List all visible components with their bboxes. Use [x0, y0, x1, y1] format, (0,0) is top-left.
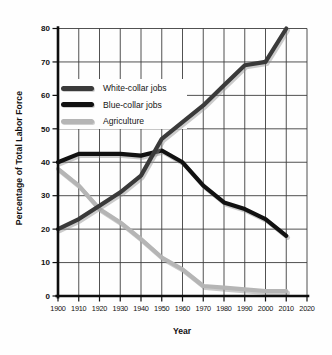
y-tick-label: 0: [46, 292, 51, 301]
agriculture-line: [58, 169, 286, 291]
x-tick-label: 1970: [196, 304, 212, 313]
labor-force-chart-figure: 0102030405060708019001910192019301940195…: [0, 0, 332, 355]
agriculture-line-shadow: [60, 171, 288, 293]
x-tick-label: 1990: [237, 304, 253, 313]
x-tick-label: 2000: [258, 304, 274, 313]
y-tick-label: 30: [41, 191, 50, 200]
x-tick-label: 2010: [279, 304, 295, 313]
y-tick-label: 60: [41, 91, 50, 100]
x-tick-label: 1900: [50, 304, 66, 313]
legend-label: White-collar jobs: [103, 83, 167, 93]
blue-collar-line-swatch: [61, 102, 94, 107]
x-tick-label: 1980: [216, 304, 232, 313]
y-tick-label: 20: [41, 225, 50, 234]
legend-item-agriculture: Agriculture: [61, 113, 167, 130]
x-tick-label: 1910: [71, 304, 87, 313]
x-tick-label: 1930: [113, 304, 129, 313]
legend-label: Blue-collar jobs: [103, 100, 162, 110]
y-tick-label: 10: [41, 258, 50, 267]
chart-canvas: 0102030405060708019001910192019301940195…: [0, 0, 332, 355]
blue-collar-jobs-line-shadow: [60, 152, 288, 237]
y-tick-label: 70: [41, 58, 50, 67]
y-tick-label: 40: [41, 158, 50, 167]
legend-item-white-collar: White-collar jobs: [61, 80, 167, 97]
chart-legend: White-collar jobs Blue-collar jobs Agric…: [61, 80, 167, 130]
x-tick-label: 1960: [175, 304, 191, 313]
y-tick-label: 80: [41, 24, 50, 33]
x-tick-label: 1920: [92, 304, 108, 313]
legend-label: Agriculture: [103, 116, 144, 126]
y-axis-title: Percentage of Total Labor Force: [14, 61, 24, 255]
y-tick-label: 50: [41, 125, 50, 134]
x-tick-label: 2020: [299, 304, 315, 313]
agriculture-line-swatch: [61, 119, 94, 124]
blue-collar-jobs-line: [58, 151, 286, 236]
x-axis-title: Year: [122, 326, 242, 336]
x-tick-label: 1950: [154, 304, 170, 313]
white-collar-line-swatch: [61, 86, 94, 91]
legend-item-blue-collar: Blue-collar jobs: [61, 97, 167, 114]
x-tick-label: 1940: [133, 304, 149, 313]
